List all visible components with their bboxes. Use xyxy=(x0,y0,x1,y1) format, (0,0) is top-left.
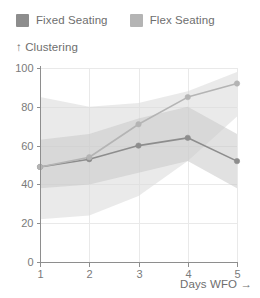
data-point-flex-seating-x5 xyxy=(234,81,239,86)
x-tick-label: 2 xyxy=(86,268,92,280)
x-tick-label: 1 xyxy=(37,268,43,280)
clustering-chart: Fixed Seating Flex Seating ↑ Clustering … xyxy=(0,0,260,298)
y-tick-label: 0 xyxy=(27,256,33,268)
y-tick-label: 100 xyxy=(15,62,33,74)
data-point-fixed-seating-x3 xyxy=(136,143,141,148)
x-tick-label: 4 xyxy=(185,268,191,280)
y-tick-label: 40 xyxy=(21,178,33,190)
x-tick-label: 3 xyxy=(136,268,142,280)
data-point-fixed-seating-x5 xyxy=(234,158,239,163)
plot-area: 02040608010012345 xyxy=(0,0,260,298)
data-point-flex-seating-x4 xyxy=(185,94,190,99)
y-tick-label: 60 xyxy=(21,140,33,152)
y-tick-label: 80 xyxy=(21,101,33,113)
data-point-flex-seating-x3 xyxy=(136,122,141,127)
data-point-flex-seating-x2 xyxy=(87,155,92,160)
x-tick-label: 5 xyxy=(234,268,240,280)
data-point-fixed-seating-x4 xyxy=(185,135,190,140)
y-tick-label: 20 xyxy=(21,217,33,229)
